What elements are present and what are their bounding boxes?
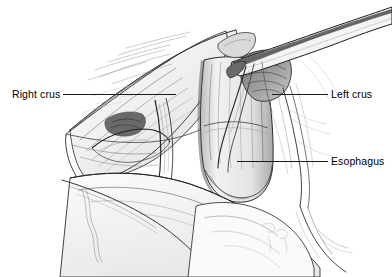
leader-line-esophagus [237, 161, 328, 162]
label-esophagus: Esophagus [331, 155, 384, 167]
label-right-crus: Right crus [12, 88, 60, 100]
anatomy-illustration [0, 0, 392, 277]
leader-line-right-crus [63, 94, 176, 95]
leader-line-left-crus [272, 94, 328, 95]
label-left-crus: Left crus [331, 88, 372, 100]
anatomical-figure: Right crus Left crus Esophagus [0, 0, 392, 277]
